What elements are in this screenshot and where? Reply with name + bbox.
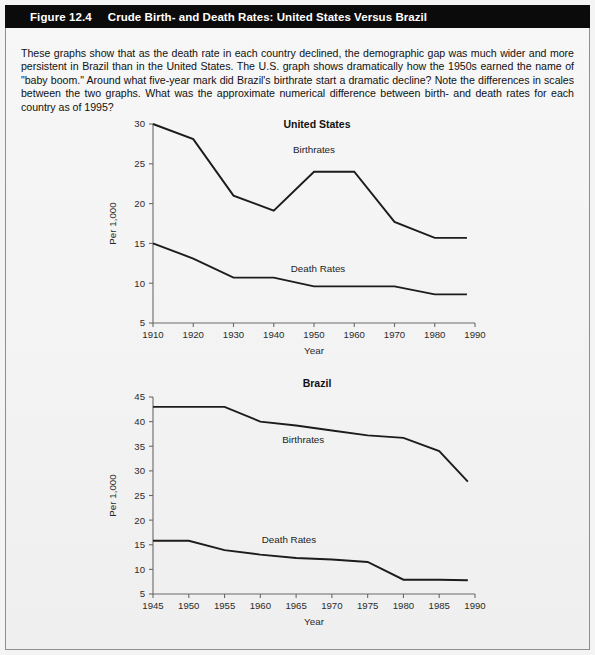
y-tick-label: 45: [134, 391, 145, 402]
x-tick-label: 1960: [344, 329, 365, 340]
x-tick-label: 1970: [321, 600, 342, 611]
y-tick-label: 20: [134, 515, 145, 526]
y-tick-label: 15: [134, 238, 145, 249]
y-tick-label: 15: [134, 539, 145, 550]
chart-axes: [153, 397, 475, 594]
series-line-birthrates: [153, 124, 467, 238]
chart-svg-brazil: Brazil5101520253035404519451950195519601…: [0, 372, 595, 642]
y-tick-label: 10: [134, 564, 145, 575]
x-tick-label: 1975: [357, 600, 378, 611]
x-tick-label: 1985: [429, 600, 450, 611]
figure-caption-bar: Figure 12.4 Crude Birth- and Death Rates…: [5, 5, 590, 28]
x-tick-label: 1930: [223, 329, 244, 340]
chart-united-states: United States510152025301910192019301940…: [0, 112, 595, 362]
y-tick-label: 40: [134, 416, 145, 427]
x-tick-label: 1910: [142, 329, 163, 340]
x-tick-label: 1940: [263, 329, 284, 340]
chart-title: United States: [283, 118, 350, 130]
series-line-death-rates: [153, 541, 468, 580]
series-label-death-rates: Death Rates: [291, 263, 346, 274]
series-label-birthrates: Birthrates: [282, 434, 324, 445]
x-tick-label: 1960: [250, 600, 271, 611]
y-axis-label: Per 1,000: [107, 202, 118, 245]
x-axis-label: Year: [304, 345, 325, 356]
y-tick-label: 25: [134, 490, 145, 501]
chart-svg-united-states: United States510152025301910192019301940…: [0, 112, 595, 362]
y-axis-label: Per 1,000: [107, 474, 118, 517]
x-tick-label: 1920: [183, 329, 204, 340]
figure-root: Figure 12.4 Crude Birth- and Death Rates…: [0, 0, 595, 655]
chart-title: Brazil: [303, 377, 332, 389]
figure-title: Crude Birth- and Death Rates: United Sta…: [108, 11, 427, 23]
y-tick-label: 10: [134, 278, 145, 289]
x-tick-label: 1980: [424, 329, 445, 340]
y-tick-label: 25: [134, 158, 145, 169]
figure-number: Figure 12.4: [30, 11, 92, 23]
x-tick-label: 1990: [464, 600, 485, 611]
y-tick-label: 5: [140, 317, 145, 328]
y-tick-label: 5: [140, 588, 145, 599]
y-tick-label: 30: [134, 118, 145, 129]
y-tick-label: 35: [134, 441, 145, 452]
x-tick-label: 1980: [393, 600, 414, 611]
chart-brazil: Brazil5101520253035404519451950195519601…: [0, 372, 595, 642]
figure-intro-text: These graphs show that as the death rate…: [21, 47, 574, 115]
x-tick-label: 1970: [384, 329, 405, 340]
x-tick-label: 1945: [142, 600, 163, 611]
x-tick-label: 1990: [464, 329, 485, 340]
x-tick-label: 1965: [285, 600, 306, 611]
x-tick-label: 1955: [214, 600, 235, 611]
x-tick-label: 1950: [303, 329, 324, 340]
y-tick-label: 30: [134, 465, 145, 476]
series-label-birthrates: Birthrates: [293, 144, 335, 155]
series-label-death-rates: Death Rates: [262, 534, 317, 545]
y-tick-label: 20: [134, 198, 145, 209]
x-tick-label: 1950: [178, 600, 199, 611]
x-axis-label: Year: [304, 616, 325, 627]
